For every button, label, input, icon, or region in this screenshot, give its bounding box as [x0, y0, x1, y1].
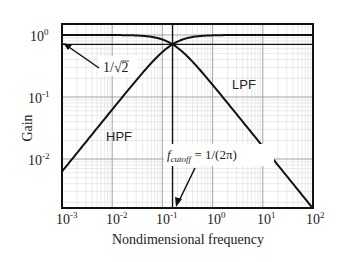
y-axis-title: Gain	[20, 114, 35, 141]
lpf-label: LPF	[232, 77, 256, 92]
x-axis-title: Nondimensional frequency	[112, 232, 264, 247]
y-tick-label-1e-1: 10-1	[28, 89, 50, 106]
plot-frame	[62, 24, 313, 208]
minor-grid	[62, 24, 313, 208]
reference-lines	[62, 24, 313, 208]
y-tick-label-1e-2: 10-2	[28, 151, 50, 168]
y-tick-label-1e0: 100	[30, 27, 49, 44]
x-tick-label-1e0: 100	[207, 210, 226, 227]
bode-gain-chart: 100 10-1 10-2 10-3 10-2 10-1 100 101 102…	[0, 0, 347, 262]
x-tick-label-1e-2: 10-2	[106, 210, 128, 227]
major-grid	[62, 24, 313, 208]
inv-sqrt2-label: 1/√2	[103, 60, 129, 75]
x-tick-label-1e-3: 10-3	[56, 210, 78, 227]
x-tick-label-1e1: 101	[257, 210, 276, 227]
x-tick-label-1e2: 102	[306, 210, 325, 227]
hpf-label: HPF	[106, 129, 132, 144]
inv-sqrt2-arrow	[66, 45, 99, 68]
x-tick-label-1e-1: 10-1	[156, 210, 178, 227]
